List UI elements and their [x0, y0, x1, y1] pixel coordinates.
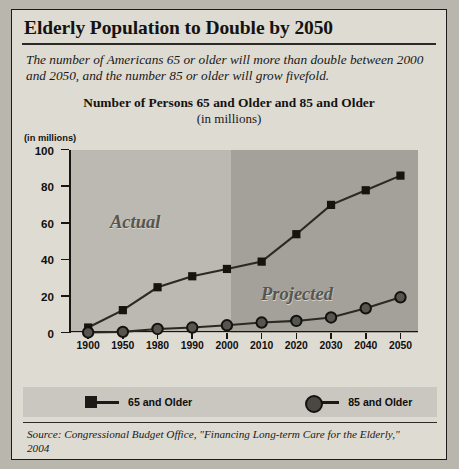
data-point-marker — [223, 265, 231, 273]
data-point-marker — [362, 186, 370, 194]
data-point-marker — [396, 171, 404, 179]
data-point-marker — [152, 323, 162, 333]
deck-text: The number of Americans 65 or older will… — [12, 45, 446, 85]
infographic-panel: Elderly Population to Double by 2050 The… — [11, 9, 447, 460]
square-marker-icon — [85, 395, 119, 409]
data-point-marker — [258, 257, 266, 265]
series-85-and-older — [83, 292, 406, 338]
data-point-marker — [395, 292, 405, 302]
data-point-marker — [119, 306, 127, 314]
chart-title: Number of Persons 65 and Older and 85 an… — [12, 85, 446, 111]
chart-subtitle: (in millions) — [12, 111, 446, 127]
y-axis-units-label: (in millions) — [12, 127, 446, 143]
data-point-marker — [187, 322, 197, 332]
page-title: Elderly Population to Double by 2050 — [12, 10, 446, 42]
data-point-marker — [291, 315, 301, 325]
data-point-marker — [188, 272, 196, 280]
data-point-marker — [292, 230, 300, 238]
chart-legend: 65 and Older 85 and Older — [23, 387, 437, 417]
series-line — [88, 175, 400, 327]
data-point-marker — [153, 283, 161, 291]
legend-item-85-and-older[interactable]: 85 and Older — [305, 395, 412, 409]
legend-label-85: 85 and Older — [348, 396, 412, 408]
data-point-marker — [118, 326, 128, 336]
chart-plot-area: 020406080100 190019501980199020002010202… — [12, 144, 447, 359]
circle-marker-icon — [305, 395, 339, 409]
data-point-marker — [361, 303, 371, 313]
data-point-marker — [222, 320, 232, 330]
legend-label-65: 65 and Older — [128, 396, 192, 408]
data-point-marker — [83, 327, 93, 337]
legend-item-65-and-older[interactable]: 65 and Older — [85, 395, 192, 409]
data-point-marker — [326, 312, 336, 322]
series-lines — [12, 144, 447, 359]
source-box: Source: Congressional Budget Office, "Fi… — [23, 422, 437, 455]
source-text: Source: Congressional Budget Office, "Fi… — [27, 428, 423, 455]
data-point-marker — [327, 200, 335, 208]
data-point-marker — [256, 317, 266, 327]
series-65-and-older — [84, 171, 405, 331]
